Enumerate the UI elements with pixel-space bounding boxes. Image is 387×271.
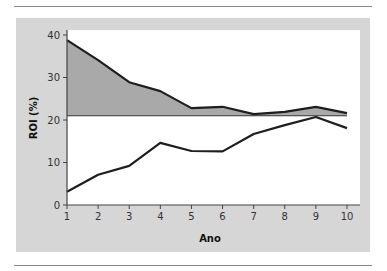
x-tick-label: 2 [95, 211, 101, 222]
y-tick-label: 30 [47, 72, 60, 83]
x-tick-label: 10 [341, 211, 354, 222]
x-tick-label: 9 [313, 211, 319, 222]
x-tick-label: 8 [282, 211, 288, 222]
y-tick-label: 20 [47, 115, 60, 126]
y-tick-label: 40 [47, 30, 60, 41]
x-tick-label: 3 [126, 211, 132, 222]
y-axis-title: ROI (%) [28, 97, 39, 140]
y-tick-label: 10 [47, 157, 60, 168]
roi-line-chart: 12345678910 010203040 Ano ROI (%) [0, 0, 387, 271]
y-axis-ticks: 010203040 [47, 30, 67, 211]
x-tick-label: 4 [157, 211, 163, 222]
x-tick-label: 7 [250, 211, 256, 222]
x-axis-title: Ano [199, 233, 221, 244]
x-tick-label: 6 [219, 211, 225, 222]
x-tick-label: 5 [188, 211, 194, 222]
y-tick-label: 0 [54, 200, 60, 211]
x-tick-label: 1 [64, 211, 70, 222]
x-axis-ticks: 12345678910 [64, 205, 354, 222]
